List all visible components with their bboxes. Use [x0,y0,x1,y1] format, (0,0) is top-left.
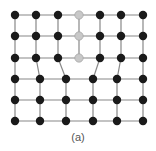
atom [32,32,40,40]
atom [113,117,121,125]
atom [11,11,19,19]
atom [11,96,19,104]
lattice-diagram [0,0,156,151]
atom [96,54,104,62]
atom [139,11,147,19]
atom [36,117,44,125]
atom [89,75,97,83]
atom [11,117,19,125]
atom [139,54,147,62]
atom [117,54,125,62]
atom [89,96,97,104]
atom [62,117,70,125]
figure-caption: (a) [0,131,156,143]
atom [113,96,121,104]
atom [117,11,125,19]
atom [96,11,104,19]
atom [11,32,19,40]
atom [139,117,147,125]
atom [113,75,121,83]
atom [89,117,97,125]
atom [54,11,62,19]
atom [54,54,62,62]
atom [36,96,44,104]
extra-atom [75,32,83,40]
extra-atom [75,54,83,62]
atom [36,75,44,83]
atom [62,75,70,83]
atom [62,96,70,104]
atom [96,32,104,40]
atom [117,32,125,40]
atom [139,96,147,104]
atom [32,54,40,62]
atom [11,75,19,83]
atom [32,11,40,19]
atom [11,54,19,62]
extra-atom [75,11,83,19]
atom [139,32,147,40]
atom [54,32,62,40]
atom [139,75,147,83]
